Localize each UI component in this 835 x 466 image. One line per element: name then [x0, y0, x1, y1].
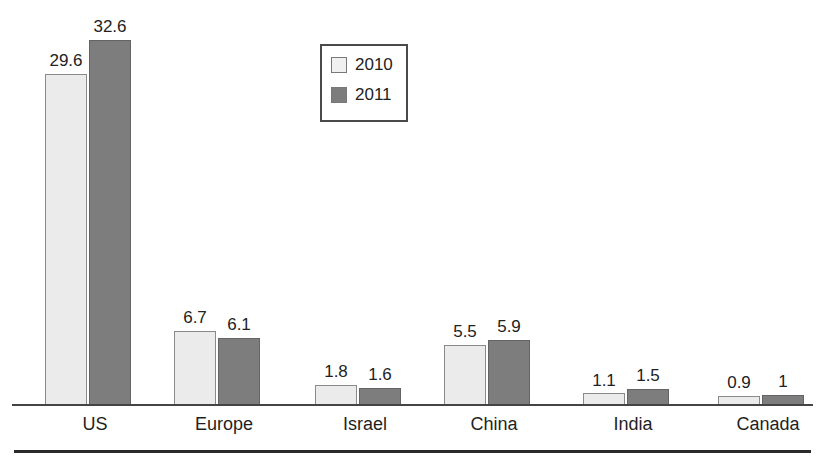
legend: 2010 2011: [320, 44, 408, 122]
bar-europe-2011[interactable]: [218, 338, 260, 406]
bar-group-canada: 0.9 1: [718, 0, 818, 406]
category-label-canada: Canada: [718, 413, 818, 435]
plot-area: 29.6 32.6 US 6.7 6.1: [12, 0, 813, 406]
bar-value-india-2010: 1.1: [592, 371, 616, 390]
bar-group-bars: 5.5 5.9: [444, 0, 544, 406]
bar-chart: 29.6 32.6 US 6.7 6.1: [0, 0, 835, 466]
x-axis-line: [12, 404, 813, 406]
legend-label-2011: 2011: [355, 86, 392, 104]
legend-item-2010[interactable]: 2010: [331, 56, 393, 74]
category-label-india: India: [583, 413, 683, 435]
category-label-israel: Israel: [315, 413, 415, 435]
bar-value-israel-2010: 1.8: [324, 362, 348, 381]
bar-group-us: 29.6 32.6: [45, 0, 145, 406]
bar-group-india: 1.1 1.5: [583, 0, 683, 406]
bar-group-bars: 1.1 1.5: [583, 0, 683, 406]
bar-china-2010[interactable]: [444, 345, 486, 406]
bar-value-china-2010: 5.5: [453, 322, 477, 341]
bar-group-bars: 0.9 1: [718, 0, 818, 406]
category-label-us: US: [45, 413, 145, 435]
category-label-europe: Europe: [174, 413, 274, 435]
bar-value-europe-2010: 6.7: [183, 308, 207, 327]
bar-us-2010[interactable]: [45, 74, 87, 406]
bar-value-china-2011: 5.9: [497, 317, 521, 336]
bar-value-canada-2010: 0.9: [727, 373, 751, 392]
legend-swatch-2011-icon: [331, 87, 347, 103]
bar-value-us-2011: 32.6: [93, 17, 126, 36]
bar-value-india-2011: 1.5: [636, 366, 660, 385]
bar-value-israel-2011: 1.6: [368, 365, 392, 384]
bar-value-us-2010: 29.6: [49, 51, 82, 70]
bar-group-europe: 6.7 6.1: [174, 0, 274, 406]
bar-us-2011[interactable]: [89, 40, 131, 406]
bar-group-china: 5.5 5.9: [444, 0, 544, 406]
bottom-rule: [14, 450, 811, 453]
bar-value-europe-2011: 6.1: [227, 315, 251, 334]
bar-group-bars: 29.6 32.6: [45, 0, 145, 406]
legend-item-2011[interactable]: 2011: [331, 86, 392, 104]
bar-china-2011[interactable]: [488, 340, 530, 406]
bar-europe-2010[interactable]: [174, 331, 216, 406]
legend-label-2010: 2010: [355, 56, 393, 74]
bar-value-canada-2011: 1: [778, 372, 787, 391]
bar-group-bars: 6.7 6.1: [174, 0, 274, 406]
bar-israel-2010[interactable]: [315, 385, 357, 406]
category-label-china: China: [444, 413, 544, 435]
legend-swatch-2010-icon: [331, 57, 347, 73]
